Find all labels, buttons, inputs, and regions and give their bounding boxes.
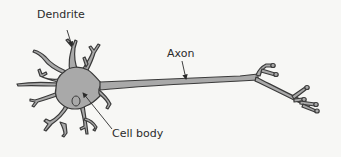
nucleus [72, 96, 80, 106]
axon-label: Axon [167, 48, 194, 59]
neuron-diagram: Dendrite Axon Cell body [0, 0, 341, 157]
dendrite-label: Dendrite [37, 9, 85, 20]
cell-body-label: Cell body [112, 128, 163, 139]
axon-terminals [255, 64, 319, 114]
axon [100, 74, 258, 90]
axon-pointer [182, 61, 186, 79]
neuron-illustration [0, 0, 341, 157]
